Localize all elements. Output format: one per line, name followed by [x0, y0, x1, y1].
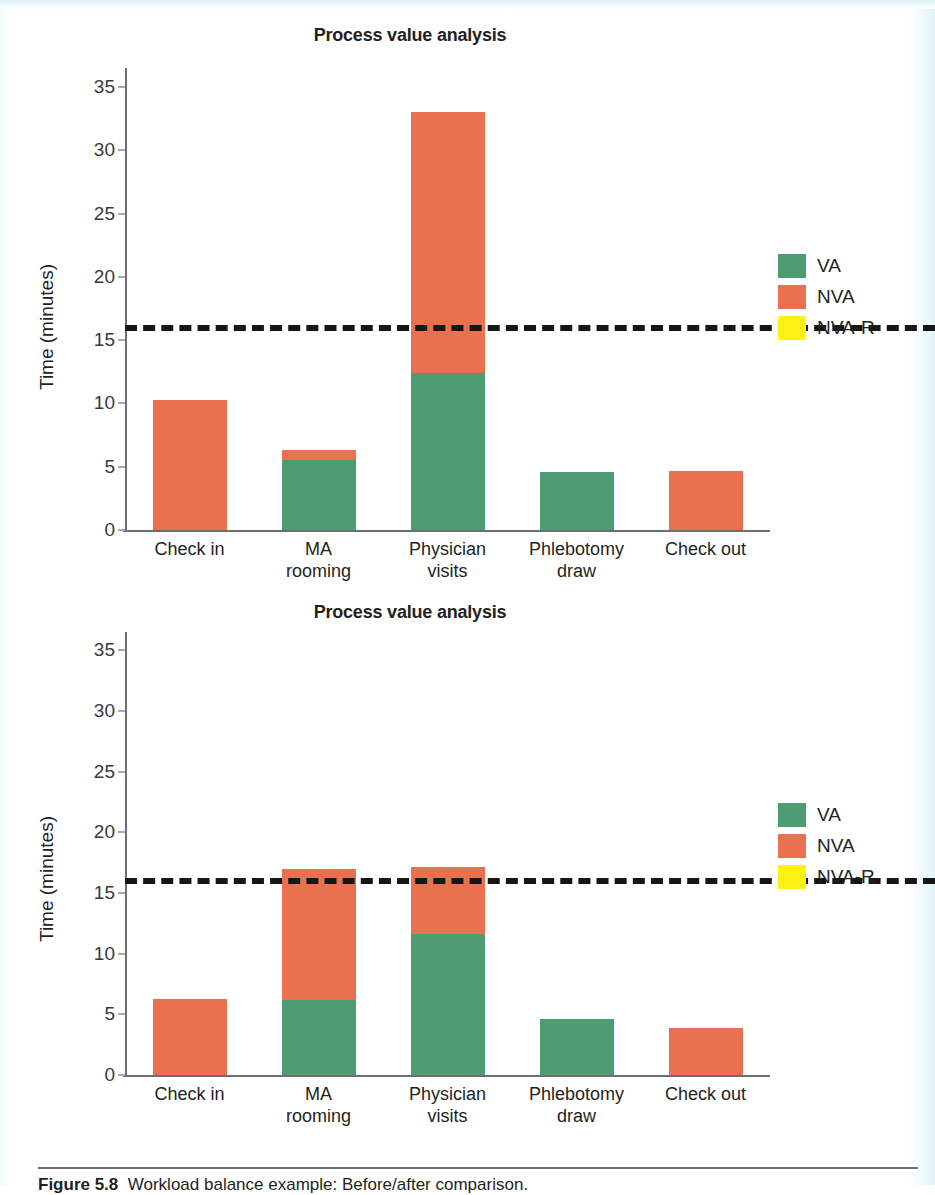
- bar-phlebotomy-draw[interactable]: [540, 68, 614, 530]
- y-axis-tick: [118, 213, 125, 215]
- bar-segment-va: [282, 1000, 356, 1075]
- y-axis-tick-label: 35: [94, 76, 115, 98]
- y-axis-tick-label: 30: [94, 139, 115, 161]
- y-axis-tick-label: 15: [94, 882, 115, 904]
- legend-label-nva: NVA: [817, 835, 855, 857]
- legend-label-nva-r: NVA-R: [817, 317, 875, 339]
- legend-label-nva: NVA: [817, 286, 855, 308]
- y-axis-tick: [118, 339, 125, 341]
- y-axis-tick: [118, 649, 125, 651]
- y-axis-line-after: [125, 632, 127, 1075]
- y-axis-tick-label: 25: [94, 761, 115, 783]
- y-axis-tick: [118, 771, 125, 773]
- figure-number: Figure 5.8: [38, 1175, 118, 1194]
- bar-segment-nva: [282, 450, 356, 460]
- y-axis-tick: [118, 831, 125, 833]
- y-axis-tick-label: 15: [94, 329, 115, 351]
- legend-item-nva[interactable]: NVA: [778, 830, 875, 861]
- bar-check-out[interactable]: [669, 632, 743, 1075]
- legend-item-va[interactable]: VA: [778, 250, 875, 281]
- y-axis-title-after: Time (minutes): [36, 816, 58, 942]
- y-axis-tick-label: 20: [94, 266, 115, 288]
- legend-swatch-va-icon: [778, 254, 806, 278]
- y-axis-tick-label: 30: [94, 700, 115, 722]
- figure-caption-text: Workload balance example: Before/after c…: [128, 1175, 528, 1194]
- x-axis-tick-label: Check out: [616, 538, 796, 560]
- y-axis-tick: [118, 1074, 125, 1076]
- x-axis-tick-label: Check out: [616, 1083, 796, 1105]
- bar-segment-nva: [282, 869, 356, 1000]
- legend-swatch-nva-r-icon: [778, 865, 806, 889]
- y-axis-tick-label: 25: [94, 203, 115, 225]
- y-axis-tick: [118, 1013, 125, 1015]
- legend-swatch-nva-icon: [778, 834, 806, 858]
- bar-physician-visits[interactable]: [411, 68, 485, 530]
- plot-area-before: 05101520253035: [125, 68, 770, 530]
- bar-physician-visits[interactable]: [411, 632, 485, 1075]
- legend-label-va: VA: [817, 255, 841, 277]
- chart-panel-before: Process value analysis 05101520253035 Ti…: [0, 0, 935, 595]
- legend-before: VA NVA NVA-R: [778, 250, 875, 343]
- bar-check-out[interactable]: [669, 68, 743, 530]
- bar-segment-va: [540, 1019, 614, 1075]
- y-axis-line-before: [125, 68, 127, 530]
- legend-swatch-va-icon: [778, 803, 806, 827]
- legend-label-va: VA: [817, 804, 841, 826]
- bar-segment-va: [411, 934, 485, 1075]
- legend-after: VA NVA NVA-R: [778, 799, 875, 892]
- y-axis-tick: [118, 86, 125, 88]
- legend-item-nva[interactable]: NVA: [778, 281, 875, 312]
- bar-segment-nva: [411, 112, 485, 373]
- y-axis-tick: [118, 529, 125, 531]
- y-axis-tick-label: 10: [94, 943, 115, 965]
- y-axis-tick: [118, 276, 125, 278]
- bar-phlebotomy-draw[interactable]: [540, 632, 614, 1075]
- y-axis-tick-label: 5: [104, 1003, 115, 1025]
- bar-segment-nva: [153, 400, 227, 530]
- bar-ma-rooming[interactable]: [282, 632, 356, 1075]
- y-axis-title-before: Time (minutes): [36, 264, 58, 390]
- bar-ma-rooming[interactable]: [282, 68, 356, 530]
- legend-swatch-nva-r-icon: [778, 316, 806, 340]
- bar-segment-nva: [669, 1028, 743, 1075]
- bar-segment-va: [282, 460, 356, 530]
- y-axis-tick-label: 35: [94, 639, 115, 661]
- bar-segment-nva: [153, 999, 227, 1075]
- chart-panel-after: Process value analysis 05101520253035 Ti…: [0, 592, 935, 1092]
- y-axis-tick-label: 20: [94, 821, 115, 843]
- bar-segment-va: [540, 472, 614, 530]
- y-axis-tick-label: 10: [94, 392, 115, 414]
- bar-segment-nva: [669, 471, 743, 530]
- y-axis-tick: [118, 953, 125, 955]
- legend-item-va[interactable]: VA: [778, 799, 875, 830]
- bar-segment-va: [411, 373, 485, 530]
- y-axis-tick: [118, 149, 125, 151]
- chart-title-before: Process value analysis: [0, 25, 820, 46]
- legend-label-nva-r: NVA-R: [817, 866, 875, 888]
- y-axis-tick: [118, 466, 125, 468]
- legend-item-nva-r[interactable]: NVA-R: [778, 312, 875, 343]
- y-axis-tick: [118, 402, 125, 404]
- bar-check-in[interactable]: [153, 68, 227, 530]
- y-axis-tick: [118, 710, 125, 712]
- x-axis-line-before: [123, 530, 770, 532]
- bar-check-in[interactable]: [153, 632, 227, 1075]
- figure-caption: Figure 5.8 Workload balance example: Bef…: [38, 1175, 918, 1195]
- legend-swatch-nva-icon: [778, 285, 806, 309]
- plot-area-after: 05101520253035: [125, 632, 770, 1075]
- x-axis-line-after: [123, 1075, 770, 1077]
- chart-title-after: Process value analysis: [0, 602, 820, 623]
- legend-item-nva-r[interactable]: NVA-R: [778, 861, 875, 892]
- caption-divider: [38, 1167, 918, 1169]
- y-axis-tick: [118, 892, 125, 894]
- y-axis-tick-label: 5: [104, 456, 115, 478]
